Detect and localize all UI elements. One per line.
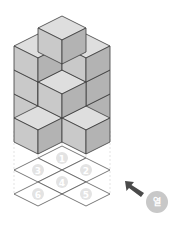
cube-figure: 1 2 3 4 5 6 [0, 0, 175, 225]
open-answer-button[interactable]: 열 [146, 191, 168, 213]
cell-label-4: 4 [59, 178, 65, 188]
cell-label-6: 6 [35, 190, 41, 200]
cell-label-1: 1 [59, 154, 65, 164]
open-button-label: 열 [153, 198, 161, 207]
cube-stack [14, 16, 110, 154]
pointer-arrow-icon [125, 181, 145, 197]
cell-label-2: 2 [83, 166, 89, 176]
cell-label-5: 5 [83, 190, 89, 200]
cell-label-3: 3 [35, 166, 41, 176]
